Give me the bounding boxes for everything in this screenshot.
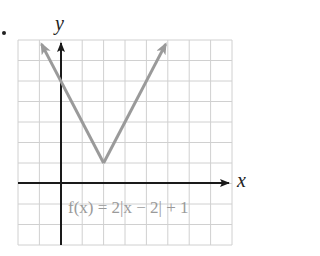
x-axis-label: x <box>237 169 246 192</box>
function-label: f(x) = 2|x − 2| + 1 <box>68 198 189 218</box>
y-axis-label: y <box>55 12 64 35</box>
